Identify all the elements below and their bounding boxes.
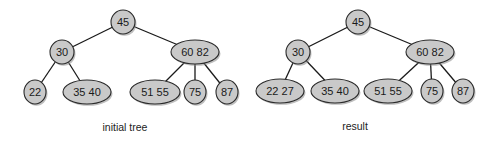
tree-node-75: 75 (184, 80, 208, 106)
node-keys: 60 82 (181, 46, 209, 58)
b-tree-insertion-diagram: 453060 822235 4051 557587initial tree 45… (0, 0, 497, 144)
node-keys: 30 (56, 46, 68, 58)
tree-node-30: 30 (50, 40, 76, 66)
tree-node-30: 30 (286, 40, 312, 66)
initial-tree: 453060 822235 4051 557587initial tree (24, 10, 240, 133)
node-keys: 35 40 (321, 85, 349, 97)
node-keys: 60 82 (416, 46, 444, 58)
result-tree: 453060 8222 2735 4051 557587result (256, 10, 476, 132)
tree-node-35-40: 35 40 (311, 79, 361, 105)
node-keys: 35 40 (73, 86, 101, 98)
node-keys: 45 (352, 16, 364, 28)
tree-node-87: 87 (216, 80, 240, 106)
node-keys: 22 (29, 86, 41, 98)
node-keys: 30 (292, 46, 304, 58)
tree-node-60-82: 60 82 (406, 40, 456, 66)
node-keys: 87 (221, 86, 233, 98)
tree-node-60-82: 60 82 (171, 40, 221, 66)
node-keys: 75 (426, 85, 438, 97)
node-keys: 75 (189, 86, 201, 98)
tree-node-75: 75 (421, 79, 445, 105)
node-keys: 87 (457, 85, 469, 97)
node-keys: 51 55 (374, 85, 402, 97)
tree-node-87: 87 (452, 79, 476, 105)
tree-caption: result (342, 120, 368, 132)
node-keys: 51 55 (141, 86, 169, 98)
tree-caption: initial tree (103, 121, 148, 133)
tree-node-45: 45 (346, 10, 372, 36)
tree-node-51-55: 51 55 (364, 79, 414, 105)
node-keys: 45 (117, 16, 129, 28)
tree-node-22: 22 (24, 80, 48, 106)
tree-node-45: 45 (111, 10, 137, 36)
tree-node-51-55: 51 55 (130, 80, 182, 106)
tree-node-22-27: 22 27 (256, 79, 306, 105)
node-keys: 22 27 (266, 85, 294, 97)
tree-node-35-40: 35 40 (63, 80, 113, 106)
